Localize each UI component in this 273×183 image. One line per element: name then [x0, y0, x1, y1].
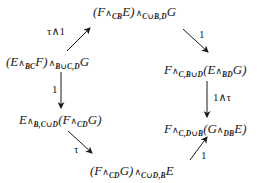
term: (G: [203, 121, 217, 136]
subscript: B∪C,D: [55, 62, 80, 71]
subscript: C∪D,B: [141, 171, 166, 180]
term: F: [164, 62, 172, 77]
subscript: C,B∪D: [179, 70, 204, 79]
arrow-label-1-top-right: 1: [199, 28, 205, 40]
term: E): [234, 121, 246, 136]
arrow-label-1-bottom-right: 1: [201, 149, 207, 161]
arrow-label-1-wedge-tau: 1∧τ: [213, 91, 231, 103]
term: (E: [203, 62, 215, 77]
node-left-lower: E∧B,C∪D(F∧CDG): [19, 113, 102, 132]
arrow-label-tau-wedge-1: τ∧1: [47, 25, 65, 37]
node-right-lower: F∧C,D∪B(G∧DBE): [164, 122, 247, 141]
arrow-left-upper-to-top: [67, 28, 90, 51]
subscript: C,D∪B: [179, 129, 204, 138]
term: G): [233, 62, 247, 77]
smash-symbol: ∧: [172, 66, 179, 76]
node-right-upper: F∧C,B∪D(E∧BDG): [164, 63, 247, 82]
term: E): [122, 4, 134, 19]
term: (E: [6, 54, 18, 69]
arrow-label-tau-bottom-left: τ: [74, 143, 78, 155]
term: (F: [93, 4, 105, 19]
subscript: BD: [222, 70, 233, 79]
subscript: C∪B,D: [142, 12, 167, 21]
smash-symbol: ∧: [18, 58, 25, 68]
arrow-label-1-left: 1: [52, 83, 58, 95]
subscript: CD: [77, 120, 88, 129]
term: F): [35, 54, 47, 69]
term: E: [166, 163, 174, 178]
term: G: [167, 4, 176, 19]
smash-symbol: ∧: [102, 167, 109, 177]
arrows-layer: [0, 0, 273, 183]
node-top: (F∧CBE) ∧C∪B,DG: [93, 5, 176, 24]
subscript: CB: [112, 12, 122, 21]
arrow-left-lower-to-bottom: [68, 131, 92, 153]
term: G): [120, 163, 134, 178]
smash-symbol: ∧: [172, 125, 179, 135]
term: (F: [90, 163, 102, 178]
term: G): [88, 112, 102, 127]
subscript: CD: [109, 171, 120, 180]
smash-symbol: ∧: [105, 8, 112, 18]
node-left-upper: (E∧BCF) ∧B∪C,DG: [6, 55, 89, 74]
term: F: [164, 121, 172, 136]
subscript: DB: [223, 129, 234, 138]
node-bottom: (F∧CDG) ∧C∪D,BE: [90, 164, 174, 183]
term: E: [19, 112, 27, 127]
term: (F: [58, 112, 70, 127]
subscript: B,C∪D: [34, 120, 59, 129]
smash-symbol: ∧: [27, 116, 34, 126]
term: G: [80, 54, 89, 69]
subscript: BC: [25, 62, 35, 71]
